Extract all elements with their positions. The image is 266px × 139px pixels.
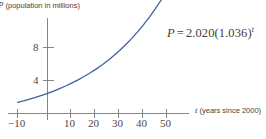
y-axis-ticks — [43, 48, 54, 81]
x-axis-title: t (years since 2000) — [195, 106, 261, 115]
equation-annotation: P=2.020(1.036)t — [167, 27, 254, 40]
exponential-curve — [18, 0, 162, 102]
equation-coefficient: 2.020 — [186, 26, 215, 40]
x-tick-label-20: 20 — [88, 118, 99, 129]
x-tick-label--10: −10 — [8, 118, 25, 129]
x-axis-units: (years since 2000) — [197, 106, 261, 115]
equation-exponent: t — [252, 25, 254, 34]
y-tick-label-4: 4 — [33, 75, 39, 86]
plot-area — [0, 0, 266, 139]
exponential-growth-chart: P (population in millions) t (years sinc… — [0, 0, 266, 139]
y-tick-label-8: 8 — [33, 42, 39, 53]
equation-lhs: P — [167, 26, 175, 40]
x-tick-label-40: 40 — [136, 118, 147, 129]
x-tick-label-50: 50 — [160, 118, 171, 129]
x-tick-label-30: 30 — [112, 118, 123, 129]
equation-equals: = — [175, 26, 186, 40]
equation-base: 1.036 — [219, 26, 248, 40]
y-axis-units: (population in millions) — [3, 1, 79, 10]
x-tick-label-10: 10 — [64, 118, 75, 129]
y-axis-title: P (population in millions) — [0, 1, 80, 10]
